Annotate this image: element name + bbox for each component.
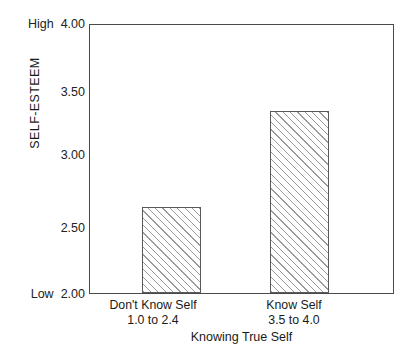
y-tick-label-4.00: High4.00 bbox=[0, 17, 85, 31]
x-category-label-1: Know Self 3.5 to 4.0 bbox=[234, 298, 354, 328]
axis-high-label: High bbox=[28, 17, 54, 31]
y-tick-value-2.50: 2.50 bbox=[61, 221, 85, 235]
y-tick-value-4.00: 4.00 bbox=[61, 17, 85, 31]
y-tick-label-2.50: 2.50 bbox=[0, 221, 85, 235]
x-category-label-0-line1: Don't Know Self bbox=[89, 298, 217, 313]
bar-know-self bbox=[270, 111, 329, 293]
x-category-label-1-line1: Know Self bbox=[234, 298, 354, 313]
y-tick-value-3.50: 3.50 bbox=[61, 85, 85, 99]
x-category-label-1-line2: 3.5 to 4.0 bbox=[234, 313, 354, 328]
bar-chart-figure: SELF-ESTEEM High4.00 3.50 3.00 2.50 Low2… bbox=[0, 0, 412, 353]
plot-area bbox=[89, 24, 394, 294]
x-category-label-0-line2: 1.0 to 2.4 bbox=[89, 313, 217, 328]
bar-dont-know-self bbox=[142, 207, 201, 293]
y-tick-label-2.00: Low2.00 bbox=[0, 287, 85, 301]
y-tick-value-3.00: 3.00 bbox=[61, 148, 85, 162]
x-axis-title: Knowing True Self bbox=[89, 330, 394, 344]
y-tick-label-3.50: 3.50 bbox=[0, 85, 85, 99]
y-tick-value-2.00: 2.00 bbox=[61, 287, 85, 301]
axis-low-label: Low bbox=[31, 287, 54, 301]
x-category-label-0: Don't Know Self 1.0 to 2.4 bbox=[89, 298, 217, 328]
y-tick-label-3.00: 3.00 bbox=[0, 148, 85, 162]
